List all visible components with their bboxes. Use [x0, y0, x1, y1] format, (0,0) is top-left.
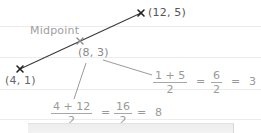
x-calc-numerator: 4 + 12	[51, 101, 92, 114]
midpoint-label: (8, 3)	[78, 47, 109, 59]
y-calc-mid-denominator: 2	[213, 83, 220, 95]
start-point-label: (4, 1)	[5, 75, 36, 87]
x-calc-mid-numerator: 16	[114, 101, 132, 114]
end-point-label: (12, 5)	[148, 7, 186, 19]
leader-line-y	[103, 60, 152, 75]
bottom-panel	[28, 123, 234, 133]
y-calc-mid-fraction: 6 2	[211, 70, 222, 95]
x-calc-equals-1: =	[101, 107, 110, 119]
endpoint-start-marker	[17, 66, 23, 72]
y-calc-equals-2: =	[231, 76, 240, 88]
endpoint-end-marker	[138, 10, 144, 16]
midpoint-caption: Midpoint	[30, 25, 79, 37]
y-calc-result: 3	[249, 76, 256, 88]
y-calc-mid-numerator: 6	[211, 70, 222, 83]
midpoint-diagram: (12, 5) Midpoint (8, 3) (4, 1) 1 + 5 2 =…	[0, 0, 261, 133]
leader-line-x	[74, 63, 86, 99]
y-calc-denominator: 2	[167, 83, 174, 95]
y-calc-fraction: 1 + 5 2	[153, 70, 187, 95]
midpoint-marker	[77, 38, 83, 44]
y-calc-numerator: 1 + 5	[153, 70, 187, 83]
y-calc-equals-1: =	[196, 76, 205, 88]
x-calc-equals-2: =	[137, 107, 146, 119]
x-calc-result: 8	[155, 107, 162, 119]
